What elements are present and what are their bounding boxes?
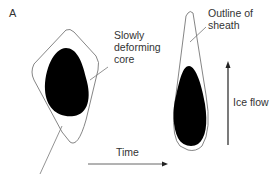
core-label-line1: Slowly [114,29,144,41]
sheath-label-line1: Outline of [208,7,253,19]
sheath-leader-line [190,27,206,42]
ice-flow-label: Ice flow [233,96,269,108]
sheath-leader-line-left [40,126,62,174]
core-leader-line [90,67,108,80]
panel-label: A [9,7,16,19]
time-arrow-head [162,162,168,167]
core-label-line2: deforming [114,41,161,53]
sheath-label-line2: sheath [208,19,240,31]
core-initial [45,48,89,116]
ice-flow-arrow-head [226,61,231,68]
core-label-line3: core [114,53,134,65]
time-label: Time [116,146,139,158]
